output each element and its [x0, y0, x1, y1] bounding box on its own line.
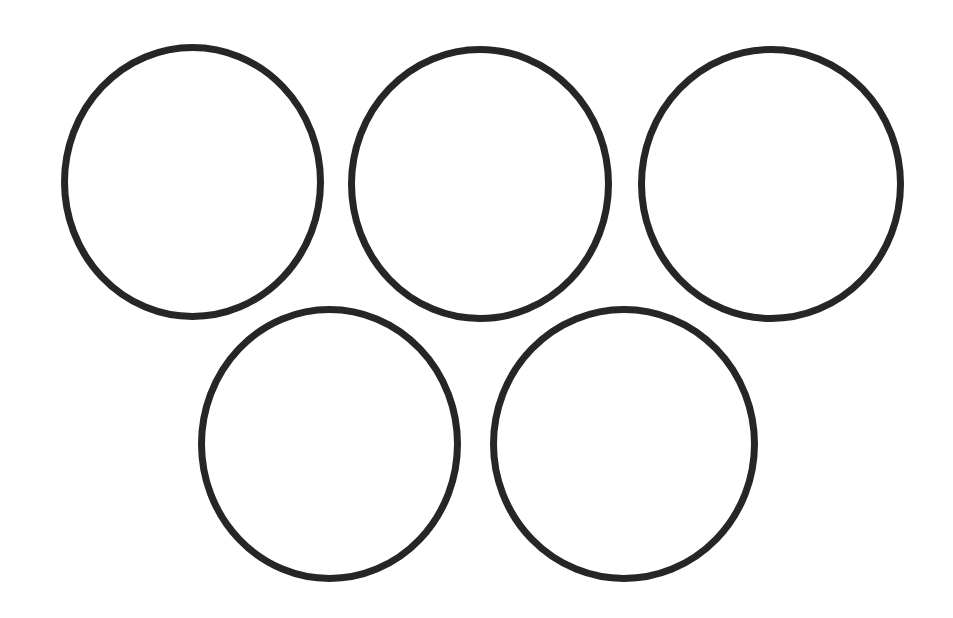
ring-bottom-left-circle: [202, 310, 458, 579]
five-rings-diagram: [0, 0, 953, 618]
ring-top-left-circle: [65, 48, 321, 317]
ring-bottom-right-circle: [494, 310, 755, 579]
ring-top-center-circle: [352, 50, 609, 319]
rings-svg: [0, 0, 953, 618]
ring-top-right-circle: [642, 50, 901, 319]
